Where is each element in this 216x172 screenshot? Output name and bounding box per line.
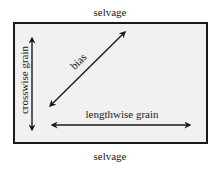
selvage-top-label: selvage bbox=[94, 6, 127, 18]
lengthwise-grain-label: lengthwise grain bbox=[85, 108, 159, 120]
crosswise-grain-label: crosswise grain bbox=[18, 45, 30, 114]
diagram-canvas: selvage selvage crosswise grain bias len… bbox=[0, 0, 216, 172]
fabric-grain-diagram: selvage selvage crosswise grain bias len… bbox=[0, 0, 216, 172]
selvage-bottom-label: selvage bbox=[94, 150, 127, 162]
